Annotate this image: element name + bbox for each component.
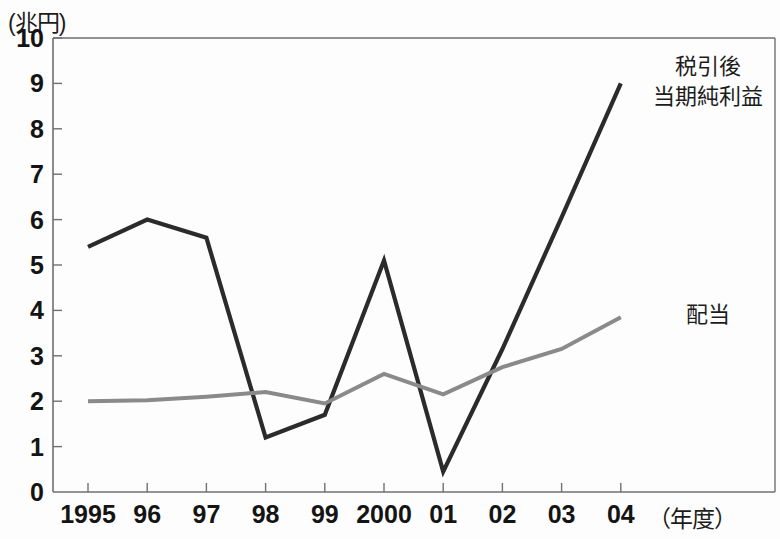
series-label-net-income-line2: 当期純利益	[638, 82, 778, 112]
series-label-dividend: 配当	[668, 300, 748, 330]
series-line-net-income	[88, 83, 621, 471]
chart-page: (兆円) （年度） 012345678910 19959697989920000…	[0, 0, 780, 539]
chart-series	[88, 83, 621, 471]
series-label-net-income-line1: 税引後	[638, 52, 778, 82]
series-line-dividend	[88, 317, 621, 403]
series-label-net-income: 税引後 当期純利益	[638, 52, 778, 112]
